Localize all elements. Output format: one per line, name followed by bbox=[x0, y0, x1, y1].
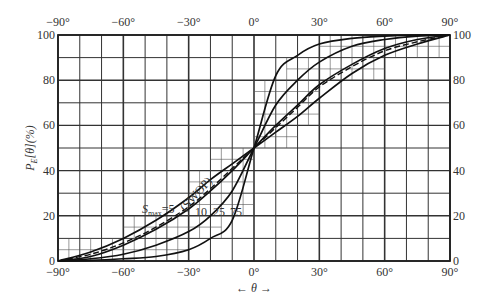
x-tick-bottom: −30° bbox=[177, 265, 201, 279]
x-tick-bottom: 0° bbox=[249, 265, 260, 279]
x-tick-top: −30° bbox=[177, 15, 201, 29]
x-tick-bottom: −60° bbox=[112, 265, 136, 279]
x-axis-label: ← θ → bbox=[236, 281, 272, 295]
x-tick-top: −90° bbox=[46, 15, 70, 29]
y-tick-left: 20 bbox=[43, 209, 55, 223]
label-75: 75 bbox=[230, 205, 242, 219]
y-tick-left: 0 bbox=[49, 254, 55, 268]
y-tick-left: 60 bbox=[43, 118, 55, 132]
x-tick-bottom: 30° bbox=[311, 265, 328, 279]
y-tick-left: 40 bbox=[43, 164, 55, 178]
x-tick-top: 90° bbox=[442, 15, 459, 29]
y-tick-right: 60 bbox=[453, 118, 465, 132]
y-tick-right: 100 bbox=[453, 28, 471, 42]
x-tick-top: −60° bbox=[112, 15, 136, 29]
y-tick-right: 80 bbox=[453, 73, 465, 87]
y-tick-left: 80 bbox=[43, 73, 55, 87]
y-axis-label: PE[θ](%) bbox=[23, 125, 39, 171]
x-tick-bottom: 60° bbox=[376, 265, 393, 279]
y-tick-left: 100 bbox=[37, 28, 55, 42]
smax-label: Smax=5 bbox=[142, 202, 175, 218]
chart-canvas: −90°−90°−60°−60°−30°−30°0°0°30°30°60°60°… bbox=[0, 0, 489, 306]
x-tick-top: 30° bbox=[311, 15, 328, 29]
x-tick-top: 60° bbox=[376, 15, 393, 29]
y-tick-right: 0 bbox=[453, 254, 459, 268]
y-tick-right: 40 bbox=[453, 164, 465, 178]
label-25: 25 bbox=[213, 205, 225, 219]
x-tick-top: 0° bbox=[249, 15, 260, 29]
label-10: 10 bbox=[195, 205, 207, 219]
y-tick-right: 20 bbox=[453, 209, 465, 223]
